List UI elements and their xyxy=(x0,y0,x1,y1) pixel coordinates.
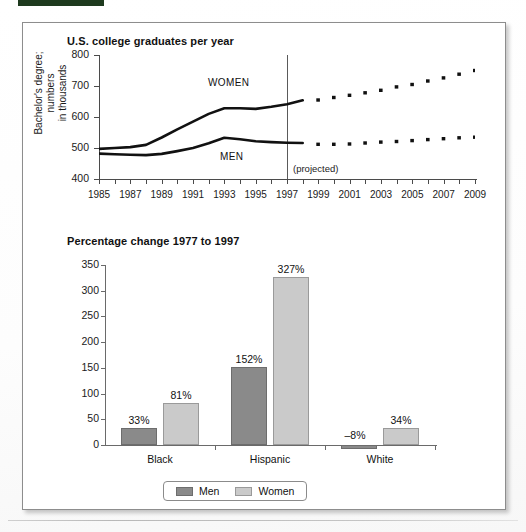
line-chart-plot-area xyxy=(99,55,475,179)
line-chart-x-tick xyxy=(350,179,351,184)
projection-dot xyxy=(395,85,399,88)
page-header-dark-bar xyxy=(18,0,104,6)
bar-value-label: 81% xyxy=(151,389,211,401)
line-chart-x-tick-label: 1989 xyxy=(145,189,179,200)
line-chart-x-tick xyxy=(444,179,445,184)
projection-dot xyxy=(426,79,430,82)
bar-value-label: 327% xyxy=(261,263,321,275)
projection-dot xyxy=(363,91,367,94)
line-chart-x-tick xyxy=(287,179,288,184)
bar-chart-y-tick-label: 250 xyxy=(71,309,99,321)
line-chart-x-tick-label: 1987 xyxy=(113,189,147,200)
bar-value-label: –8% xyxy=(325,429,385,441)
page-bottom-rule xyxy=(8,520,518,521)
bar-white-men xyxy=(341,445,377,449)
projection-dot xyxy=(348,94,352,97)
line-chart-x-tick-label: 2007 xyxy=(427,189,461,200)
projection-dot xyxy=(395,140,399,143)
y-axis-label-line-1: Bachelor's degree; numbers xyxy=(33,51,56,134)
bar-chart-title: Percentage change 1977 to 1997 xyxy=(67,235,239,247)
line-chart-y-tick-label: 600 xyxy=(63,110,89,122)
line-chart-x-tick xyxy=(130,179,131,184)
bar-chart-y-tick xyxy=(101,316,106,317)
line-chart-x-tick-label: 1991 xyxy=(176,189,210,200)
line-chart-x-tick xyxy=(240,179,241,184)
line-chart-x-tick xyxy=(475,179,476,184)
line-chart-x-tick xyxy=(193,179,194,184)
line-chart-x-tick xyxy=(397,179,398,184)
bar-value-label: 152% xyxy=(219,353,279,365)
line-chart-x-tick xyxy=(256,179,257,184)
bar-hispanic-women xyxy=(273,277,309,445)
bar-chart-y-tick xyxy=(101,265,106,266)
line-chart: U.S. college graduates per year Bachelor… xyxy=(23,23,507,213)
bar-chart-y-tick-label: 0 xyxy=(71,438,99,450)
bar-chart-y-tick xyxy=(101,419,106,420)
projection-dot xyxy=(379,89,383,92)
women-series-label: WOMEN xyxy=(208,77,249,88)
bar-chart-y-tick-label: 100 xyxy=(71,387,99,399)
figure-panel: U.S. college graduates per year Bachelor… xyxy=(22,22,506,510)
bar-chart-y-tick-label: 350 xyxy=(71,258,99,270)
line-chart-x-tick-label: 1995 xyxy=(239,189,273,200)
bar-group-separator-tick xyxy=(435,445,436,450)
line-chart-x-tick-label: 2009 xyxy=(458,189,492,200)
line-chart-x-tick xyxy=(271,179,272,184)
bar-chart-y-tick xyxy=(101,342,106,343)
bar-white-women xyxy=(383,428,419,445)
line-chart-x-tick xyxy=(381,179,382,184)
line-chart-x-tick xyxy=(318,179,319,184)
men-series-label: MEN xyxy=(220,151,243,162)
legend-swatch-men-icon xyxy=(176,487,193,496)
line-chart-x-tick-label: 2003 xyxy=(364,189,398,200)
line-chart-x-tick-label: 2001 xyxy=(333,189,367,200)
line-chart-x-tick-label: 1999 xyxy=(301,189,335,200)
bar-chart-y-tick xyxy=(101,394,106,395)
line-chart-x-tick-label: 1985 xyxy=(82,189,116,200)
projection-dot xyxy=(410,139,414,142)
bar-chart-x-axis xyxy=(105,445,437,446)
line-chart-x-tick xyxy=(209,179,210,184)
bar-black-women xyxy=(163,403,199,445)
bar-chart-y-tick-label: 200 xyxy=(71,335,99,347)
bar-category-label-hispanic: Hispanic xyxy=(225,453,315,465)
bar-chart: Percentage change 1977 to 1997 050100150… xyxy=(23,229,507,511)
bar-group-separator-tick xyxy=(325,445,326,450)
projection-dot xyxy=(332,143,336,146)
bar-group-separator-tick xyxy=(215,445,216,450)
line-chart-x-tick xyxy=(334,179,335,184)
women-projected-dots xyxy=(316,69,475,102)
line-chart-y-tick-label: 400 xyxy=(63,172,89,184)
projection-dot xyxy=(457,136,461,139)
projection-dot xyxy=(316,143,320,146)
line-chart-y-tick-label: 500 xyxy=(63,141,89,153)
legend-swatch-women-icon xyxy=(235,487,252,496)
line-chart-x-tick xyxy=(303,179,304,184)
legend-label: Men xyxy=(199,485,219,497)
line-chart-x-tick xyxy=(224,179,225,184)
projection-dot xyxy=(348,142,352,145)
projection-dot xyxy=(410,83,414,86)
men-projected-dots xyxy=(316,136,475,147)
line-chart-x-tick-label: 1993 xyxy=(207,189,241,200)
line-chart-x-tick xyxy=(365,179,366,184)
projection-dot xyxy=(442,76,446,79)
line-chart-x-tick xyxy=(459,179,460,184)
line-chart-x-tick xyxy=(99,179,100,184)
projection-dot xyxy=(473,136,475,139)
projection-dot xyxy=(442,137,446,140)
bar-chart-legend: MenWomen xyxy=(163,481,307,501)
projection-dot xyxy=(316,98,320,101)
line-chart-x-tick-label: 1997 xyxy=(270,189,304,200)
line-chart-x-tick xyxy=(412,179,413,184)
projected-note: (projected) xyxy=(293,163,338,174)
bar-black-men xyxy=(121,428,157,445)
projection-dot xyxy=(363,141,367,144)
bar-chart-y-tick xyxy=(101,291,106,292)
bar-chart-y-tick-label: 300 xyxy=(71,284,99,296)
projection-dot xyxy=(473,69,475,72)
projection-dot xyxy=(332,96,336,99)
legend-label: Women xyxy=(258,485,294,497)
bar-value-label: 33% xyxy=(109,414,169,426)
line-chart-x-tick xyxy=(162,179,163,184)
